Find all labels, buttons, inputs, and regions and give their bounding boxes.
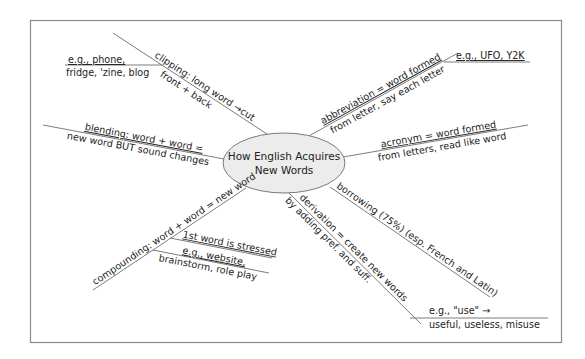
abbreviation-example: e.g., UFO, Y2K — [456, 50, 525, 61]
derivation-example-line2: useful, useless, misuse — [429, 319, 540, 330]
derivation-example-line1: e.g., "use" → — [429, 305, 490, 316]
clipping-example-line1: e.g., phone, — [68, 54, 125, 65]
center-title-line1: How English Acquires — [228, 150, 341, 162]
center-title-line2: New Words — [255, 164, 314, 176]
clipping-example-line2: fridge, 'zine, blog — [66, 67, 149, 78]
mind-map-diagram: How English Acquires New Words clipping:… — [0, 0, 585, 359]
